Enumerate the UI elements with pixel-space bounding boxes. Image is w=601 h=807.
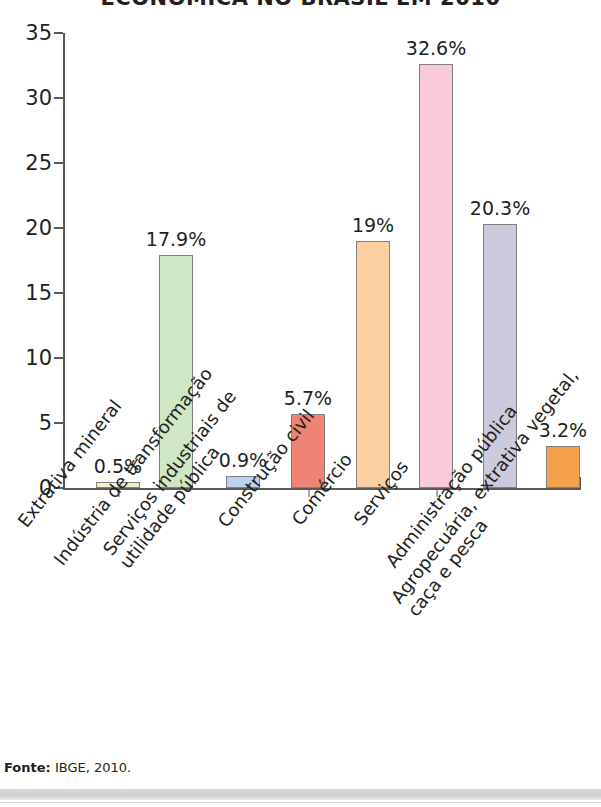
bar-value-label: 20.3% [470, 197, 530, 219]
y-axis-tick [54, 422, 63, 424]
bar [419, 64, 453, 488]
bar [356, 241, 390, 488]
y-axis-tick-label: 20 [6, 216, 52, 240]
y-axis-tick-label: 10 [6, 346, 52, 370]
source-value: IBGE, 2010. [55, 760, 131, 775]
y-axis-tick [54, 162, 63, 164]
y-axis-tick [54, 97, 63, 99]
chart-page: ECONÔMICA NO BRASIL EM 2010 051015202530… [0, 0, 601, 807]
x-axis-category-labels: Extrativa mineralIndústria de transforma… [0, 490, 601, 740]
bar-value-label: 32.6% [406, 37, 466, 59]
y-axis-tick-label: 25 [6, 151, 52, 175]
chart-title: ECONÔMICA NO BRASIL EM 2010 [0, 0, 601, 10]
bar-value-label: 5.7% [284, 387, 332, 409]
bar-value-label: 19% [352, 214, 394, 236]
y-axis-line [63, 33, 65, 488]
y-axis-tick-label: 35 [6, 21, 52, 45]
y-axis-tick-label: 5 [6, 411, 52, 435]
y-axis-tick [54, 227, 63, 229]
y-axis-tick-label: 15 [6, 281, 52, 305]
source-label: Fonte: [4, 760, 51, 775]
page-bottom-band [0, 789, 601, 800]
bar-value-label: 17.9% [146, 228, 206, 250]
y-axis-tick-label: 30 [6, 86, 52, 110]
y-axis-tick [54, 357, 63, 359]
page-bottom-rule [0, 802, 601, 803]
source-note: Fonte: IBGE, 2010. [4, 760, 131, 775]
y-axis-tick [54, 292, 63, 294]
y-axis-tick [54, 32, 63, 34]
